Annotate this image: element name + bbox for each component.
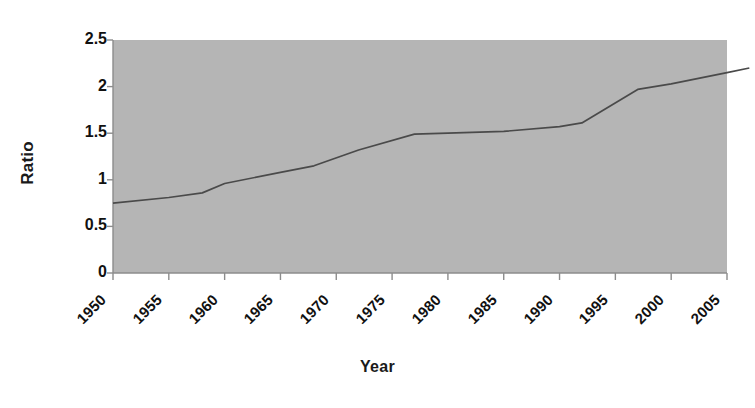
x-tick-label: 1960 [185,291,221,327]
x-axis-title: Year [0,358,755,376]
x-tick-label: 1990 [520,291,556,327]
line-chart: 00.511.522.5 195019551960196519701975198… [0,0,755,408]
x-tick-label: 2005 [687,291,723,327]
x-axis-tick-labels: 1950195519601965197019751980198519901995… [0,0,755,408]
x-tick-label: 1985 [464,291,500,327]
y-axis-title-text: Ratio [18,141,38,185]
x-tick-label: 1995 [575,291,611,327]
x-tick-label: 1975 [352,291,388,327]
x-tick-label: 1980 [408,291,444,327]
x-tick-label: 1965 [240,291,276,327]
x-tick-label: 2000 [631,291,667,327]
y-axis-title: Ratio [8,108,48,218]
x-tick-label: 1950 [73,291,109,327]
x-tick-label: 1970 [296,291,332,327]
x-tick-label: 1955 [129,291,165,327]
